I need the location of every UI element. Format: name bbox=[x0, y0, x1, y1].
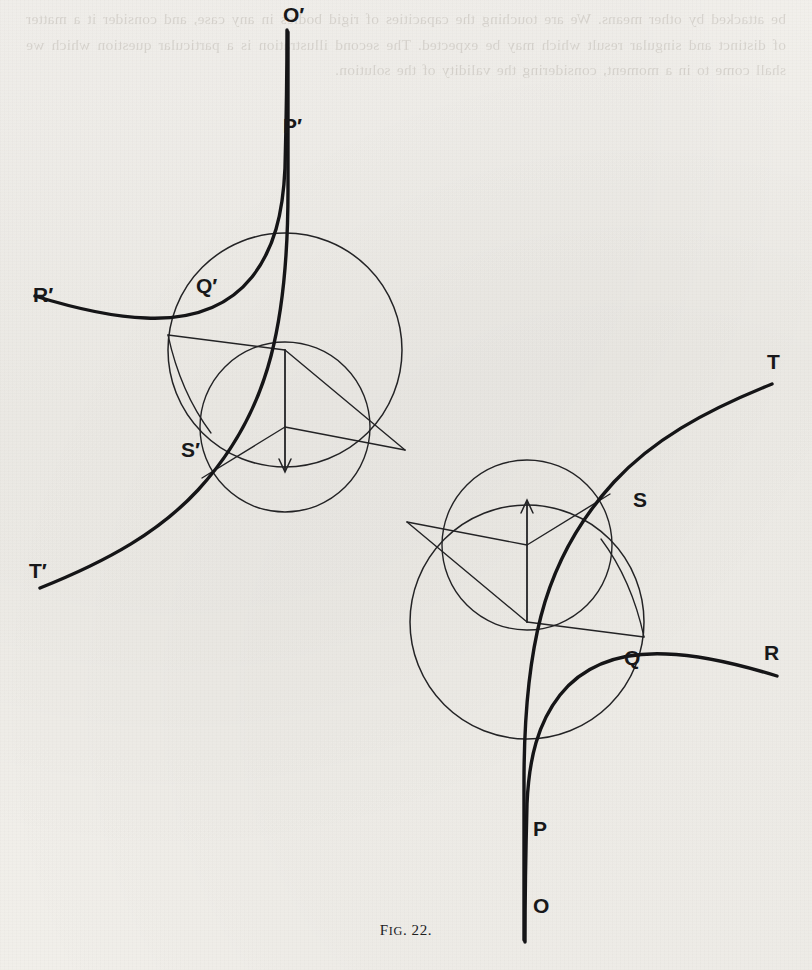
label-t: T bbox=[767, 350, 780, 373]
scanned-page: be attacked by other means. We are touch… bbox=[0, 0, 812, 970]
upper-radius-a bbox=[168, 335, 285, 350]
label-p: P bbox=[533, 817, 547, 840]
label-q-prime: Q′ bbox=[196, 274, 217, 297]
label-r-prime: R′ bbox=[33, 283, 53, 306]
label-r: R bbox=[764, 641, 779, 664]
label-q: Q bbox=[624, 646, 640, 669]
figure-caption: FIG. 22. bbox=[0, 921, 812, 939]
curve-op-qr bbox=[525, 654, 777, 942]
lower-inner-radius-b bbox=[407, 522, 527, 545]
lower-radius-a bbox=[527, 622, 644, 637]
upper-construction bbox=[35, 30, 405, 588]
upper-inner-radius-b bbox=[285, 427, 405, 450]
label-t-prime: T′ bbox=[29, 559, 47, 582]
label-o: O bbox=[533, 894, 549, 917]
figure-22-drawing: O′ P′ Q′ R′ S′ T′ T S R Q P O bbox=[0, 0, 812, 970]
label-o-prime: O′ bbox=[283, 3, 304, 26]
lower-radius-b bbox=[407, 522, 527, 622]
label-p-prime: P′ bbox=[283, 114, 302, 137]
figure-labels: O′ P′ Q′ R′ S′ T′ T S R Q P O bbox=[29, 3, 780, 917]
caption-smallcaps: IG bbox=[389, 924, 403, 938]
caption-suffix: . 22. bbox=[403, 922, 432, 938]
lower-direction-arrow bbox=[521, 500, 533, 622]
lower-construction bbox=[407, 384, 777, 942]
caption-prefix: F bbox=[380, 922, 389, 938]
upper-direction-arrow bbox=[279, 350, 291, 472]
label-s: S bbox=[633, 488, 647, 511]
label-s-prime: S′ bbox=[181, 438, 200, 461]
upper-radius-b bbox=[285, 350, 405, 450]
curve-op-qr-prime bbox=[35, 30, 287, 318]
